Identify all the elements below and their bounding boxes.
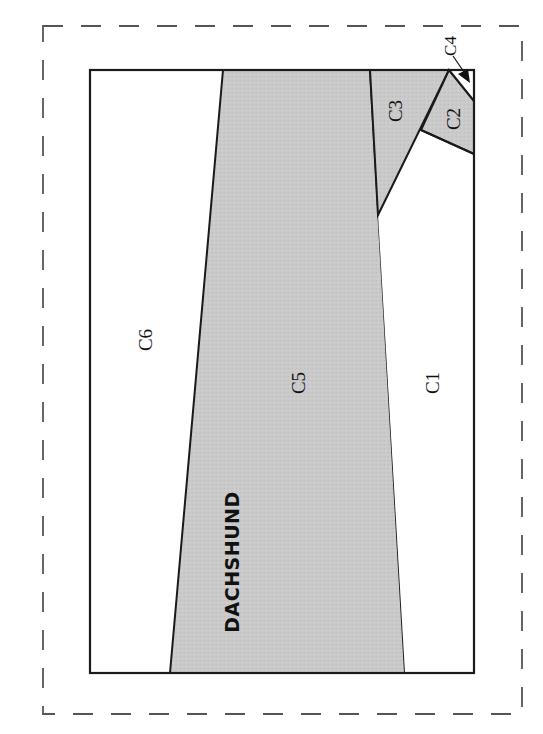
label-c3: C3 bbox=[385, 100, 406, 122]
label-c1: C1 bbox=[422, 372, 443, 394]
label-c2: C2 bbox=[443, 108, 464, 130]
label-c4: C4 bbox=[441, 36, 460, 56]
breed-label: DACHSHUND bbox=[221, 491, 243, 633]
label-c5: C5 bbox=[288, 372, 309, 394]
cutting-diagram: C6 C5 C1 C3 C2 C4 DACHSHUND bbox=[0, 0, 543, 734]
label-c6: C6 bbox=[135, 329, 156, 351]
